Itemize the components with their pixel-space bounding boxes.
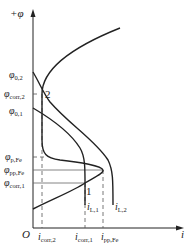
svg-text:iL,1: iL,1 <box>87 201 99 213</box>
origin-label: O <box>22 228 30 240</box>
svg-text:φp,Fe: φp,Fe <box>5 151 22 163</box>
diagram-canvas: +φ i O φ0,2 φcorr,2 φ0,1 φp,Fe φpp,Fe φc… <box>0 0 195 246</box>
svg-text:φpp,Fe: φpp,Fe <box>4 164 24 176</box>
y-axis-arrow <box>31 9 36 17</box>
limit-labels: iL,1 iL,2 <box>87 201 127 213</box>
svg-text:iL,2: iL,2 <box>115 201 127 213</box>
potential-labels: φ0,2 φcorr,2 φ0,1 φp,Fe φpp,Fe φcorr,1 <box>4 69 25 189</box>
y-axis-label: +φ <box>10 7 24 19</box>
svg-text:φcorr,2: φcorr,2 <box>4 88 25 100</box>
svg-text:icorr,1: icorr,1 <box>75 231 93 243</box>
x-axis-label: i <box>181 228 184 240</box>
point-1-label: 1 <box>86 185 92 197</box>
cathodic-curve-1 <box>33 108 85 205</box>
polarization-diagram: +φ i O φ0,2 φcorr,2 φ0,1 φp,Fe φpp,Fe φc… <box>0 0 195 246</box>
current-labels: icorr,2 icorr,1 ipp,Fe <box>38 231 119 243</box>
anodic-curve-fe <box>33 28 120 209</box>
potential-guides <box>33 170 103 183</box>
svg-text:ipp,Fe: ipp,Fe <box>101 231 119 243</box>
svg-text:φcorr,1: φcorr,1 <box>4 177 25 189</box>
point-2-label: 2 <box>45 88 51 100</box>
svg-text:φ0,1: φ0,1 <box>9 105 23 117</box>
svg-text:φ0,2: φ0,2 <box>9 69 23 81</box>
svg-text:icorr,2: icorr,2 <box>38 231 56 243</box>
